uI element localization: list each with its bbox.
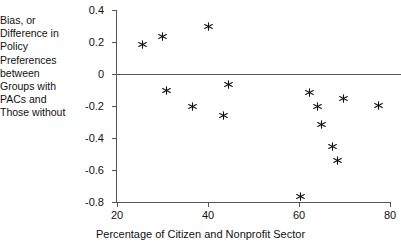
y-tick-label: -0.4 (85, 132, 104, 144)
data-point[interactable] (188, 102, 197, 111)
data-point[interactable] (313, 102, 322, 111)
y-tick-label: 0.2 (89, 36, 104, 48)
y-tick-label: -0.2 (85, 100, 104, 112)
data-point[interactable] (339, 94, 348, 103)
y-tick-mark: -0.6 (112, 170, 117, 171)
y-tick-mark: -0.2 (112, 106, 117, 107)
data-point[interactable] (219, 111, 228, 120)
y-tick-label: 0 (98, 68, 104, 80)
data-point[interactable] (158, 32, 167, 41)
x-tick-mark (299, 202, 300, 207)
x-tick-mark (117, 202, 118, 207)
x-tick-label: 80 (384, 209, 396, 221)
data-point[interactable] (374, 101, 383, 110)
zero-reference-line (117, 74, 401, 75)
y-axis-label: Bias, or Difference in Policy Preference… (0, 14, 76, 120)
data-point[interactable] (333, 156, 342, 165)
data-point[interactable] (204, 22, 213, 31)
y-tick-label: -0.8 (85, 196, 104, 208)
y-tick-label: -0.6 (85, 164, 104, 176)
scatter-plot-figure: Bias, or Difference in Policy Preference… (0, 0, 401, 248)
y-tick-mark: 0.4 (112, 10, 117, 11)
data-point[interactable] (224, 80, 233, 89)
plot-area: 0.40.20-0.2-0.4-0.6-0.8 20406080 (117, 10, 390, 202)
y-tick-mark: 0.2 (112, 42, 117, 43)
data-point[interactable] (317, 120, 326, 129)
y-tick-mark: -0.4 (112, 138, 117, 139)
data-point[interactable] (138, 40, 147, 49)
data-point[interactable] (305, 88, 314, 97)
x-tick-mark (208, 202, 209, 207)
x-axis-line (116, 202, 391, 203)
x-tick-label: 60 (293, 209, 305, 221)
x-tick-label: 20 (111, 209, 123, 221)
y-tick-mark: 0 (112, 74, 117, 75)
x-tick-mark (390, 202, 391, 207)
data-point[interactable] (162, 86, 171, 95)
data-point[interactable] (328, 142, 337, 151)
data-point[interactable] (296, 192, 305, 201)
x-axis-label: Percentage of Citizen and Nonprofit Sect… (0, 228, 401, 240)
y-tick-label: 0.4 (89, 4, 104, 16)
x-tick-label: 40 (202, 209, 214, 221)
